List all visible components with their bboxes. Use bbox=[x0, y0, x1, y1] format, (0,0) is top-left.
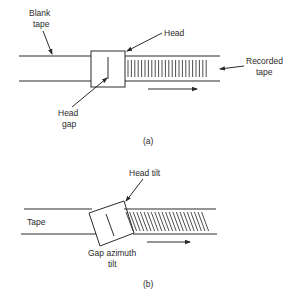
azimuth-track-stripe bbox=[137, 212, 144, 231]
gap-azimuth-label-line1: Gap azimuth bbox=[88, 248, 136, 258]
azimuth-track-stripe bbox=[202, 212, 209, 231]
azimuth-track-stripe bbox=[184, 212, 191, 231]
azimuth-track-stripe bbox=[162, 212, 169, 231]
azimuth-track-stripe bbox=[187, 212, 194, 231]
recorded-tape-label-line2: tape bbox=[256, 67, 273, 77]
azimuth-track-stripe bbox=[151, 212, 158, 231]
figure-a-caption: (a) bbox=[143, 136, 154, 146]
azimuth-track-stripe bbox=[155, 212, 162, 231]
head-gap-pointer-icon bbox=[72, 78, 107, 107]
azimuth-track-stripe bbox=[148, 212, 155, 231]
azimuth-track-stripe bbox=[126, 212, 133, 231]
head-tilt-label: Head tilt bbox=[129, 168, 161, 178]
figure-a: Blank tape Head Head gap Recorded tape (… bbox=[19, 8, 283, 146]
recorded-tape-hatching bbox=[128, 60, 206, 77]
azimuth-track-stripe bbox=[173, 212, 180, 231]
head-tilt-pointer-icon bbox=[126, 179, 143, 201]
azimuth-track-stripe bbox=[180, 212, 187, 231]
head-gap-label-line2: gap bbox=[62, 119, 76, 129]
figure-b-caption: (b) bbox=[143, 279, 154, 289]
azimuth-track-stripe bbox=[194, 212, 201, 231]
blank-tape-pointer-icon bbox=[43, 31, 52, 54]
azimuth-track-stripe bbox=[176, 212, 183, 231]
azimuth-track-stripe bbox=[191, 212, 198, 231]
head-label: Head bbox=[164, 28, 185, 38]
tilted-head-gap-line bbox=[106, 214, 114, 236]
azimuth-track-stripe bbox=[140, 212, 147, 231]
azimuth-track-stripe bbox=[166, 212, 173, 231]
azimuth-track-stripe bbox=[198, 212, 205, 231]
head-pointer-icon bbox=[127, 33, 162, 51]
azimuth-track-stripe bbox=[133, 212, 140, 231]
gap-azimuth-label-line2: tilt bbox=[108, 259, 117, 269]
blank-tape-label-line1: Blank bbox=[29, 8, 51, 18]
azimuth-track-stripe bbox=[169, 212, 176, 231]
recorded-tape-label-line1: Recorded bbox=[246, 56, 283, 66]
azimuth-recorded-hatching bbox=[126, 212, 209, 231]
recorded-tape-pointer-icon bbox=[220, 66, 244, 69]
tilted-head-block bbox=[89, 201, 134, 246]
figure-b: Tape Head tilt Gap azimuth tilt (b) bbox=[21, 168, 217, 289]
azimuth-track-stripe bbox=[144, 212, 151, 231]
tape-head-diagram: Blank tape Head Head gap Recorded tape (… bbox=[0, 0, 294, 302]
blank-tape-label-line2: tape bbox=[33, 19, 50, 29]
azimuth-track-stripe bbox=[158, 212, 165, 231]
tape-label: Tape bbox=[27, 217, 46, 227]
head-gap-label-line1: Head bbox=[58, 108, 79, 118]
